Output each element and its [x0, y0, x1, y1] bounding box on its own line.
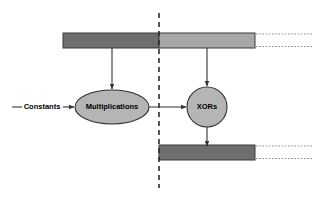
multiplications-node-label: Multiplications [86, 102, 139, 111]
top-bar-right-segment [159, 33, 255, 48]
constants-input-label: Constants [24, 102, 61, 111]
xors-node-label: XORs [197, 102, 217, 111]
bottom-bar-segment [159, 145, 255, 160]
top-bar-left-segment [63, 33, 159, 48]
diagram-canvas: Multiplications XORs Constants [0, 0, 314, 199]
cipher-round-diagram: Multiplications XORs Constants [0, 0, 314, 199]
